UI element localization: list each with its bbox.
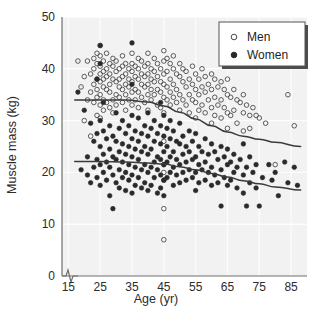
scatter-point [88, 180, 93, 185]
legend-marker-men [231, 34, 237, 40]
scatter-point [197, 162, 202, 167]
scatter-point [111, 173, 116, 178]
scatter-point [155, 168, 160, 173]
scatter-plot-figure: 01020304050 1525354555657585 Age (yr) Mu… [0, 0, 313, 316]
scatter-point [203, 178, 208, 183]
scatter-point [232, 152, 237, 157]
scatter-point [209, 183, 214, 188]
scatter-point [117, 186, 122, 191]
scatter-point [241, 191, 246, 196]
scatter-point [85, 155, 90, 160]
scatter-point [232, 170, 237, 175]
scatter-point [146, 152, 151, 157]
scatter-point [184, 144, 189, 149]
scatter-point [177, 121, 182, 126]
scatter-point [120, 142, 125, 147]
scatter-point [85, 173, 90, 178]
scatter-point [149, 126, 154, 131]
scatter-point [120, 175, 125, 180]
scatter-point [247, 155, 252, 160]
scatter-point [120, 118, 125, 123]
legend[interactable]: Men Women [219, 22, 308, 69]
scatter-point [162, 193, 167, 198]
scatter-point [142, 123, 147, 128]
scatter-point [101, 152, 106, 157]
scatter-point [123, 170, 128, 175]
scatter-point [158, 173, 163, 178]
scatter-point [197, 144, 202, 149]
scatter-point [222, 155, 227, 160]
scatter-point [114, 139, 119, 144]
scatter-point [273, 170, 278, 175]
y-tick-label: 30 [42, 114, 56, 128]
scatter-point [127, 144, 132, 149]
scatter-point [292, 165, 297, 170]
scatter-point [123, 131, 128, 136]
x-tick-label: 65 [221, 280, 235, 294]
legend-label-women: Women [247, 48, 288, 62]
scatter-point [225, 183, 230, 188]
scatter-point [260, 175, 265, 180]
scatter-point [174, 173, 179, 178]
scatter-point [168, 155, 173, 160]
scatter-point [139, 149, 144, 154]
scatter-point [200, 149, 205, 154]
scatter-point [270, 178, 275, 183]
y-tick-label: 50 [42, 10, 56, 24]
scatter-point [95, 175, 100, 180]
scatter-point [177, 142, 182, 147]
scatter-point [133, 165, 138, 170]
scatter-point [193, 170, 198, 175]
scatter-point [171, 149, 176, 154]
scatter-point [219, 204, 224, 209]
scatter-point [181, 152, 186, 157]
scatter-point [257, 204, 262, 209]
scatter-point [142, 180, 147, 185]
scatter-point [158, 157, 163, 162]
scatter-point [162, 149, 167, 154]
scatter-point [165, 175, 170, 180]
scatter-point [168, 170, 173, 175]
x-tick-label: 25 [94, 280, 108, 294]
x-tick-label: 15 [62, 280, 76, 294]
scatter-point [158, 142, 163, 147]
scatter-point [177, 180, 182, 185]
scatter-point [127, 123, 132, 128]
scatter-point [244, 165, 249, 170]
scatter-point [142, 144, 147, 149]
scatter-point [171, 183, 176, 188]
scatter-point [136, 175, 141, 180]
y-tick-label: 20 [42, 165, 56, 179]
x-tick-label: 55 [189, 280, 203, 294]
scatter-point [101, 129, 106, 134]
scatter-point [117, 149, 122, 154]
scatter-point [82, 108, 87, 113]
scatter-point [133, 147, 138, 152]
scatter-point [107, 147, 112, 152]
y-tick-label: 10 [42, 217, 56, 231]
scatter-point [146, 170, 151, 175]
scatter-point [123, 152, 128, 157]
scatter-point [181, 170, 186, 175]
scatter-point [136, 116, 141, 121]
scatter-point [127, 162, 132, 167]
scatter-point [228, 178, 233, 183]
scatter-point [98, 118, 103, 123]
x-axis-title: Age (yr) [134, 292, 178, 306]
scatter-point [98, 162, 103, 167]
scatter-point [98, 61, 103, 66]
scatter-point [117, 168, 122, 173]
scatter-point [187, 149, 192, 154]
scatter-point [168, 118, 173, 123]
x-tick-label: 85 [284, 280, 298, 294]
scatter-point [181, 134, 186, 139]
scatter-point [251, 170, 256, 175]
scatter-point [107, 123, 112, 128]
scatter-point [152, 118, 157, 123]
scatter-point [104, 136, 109, 141]
scatter-point [216, 180, 221, 185]
scatter-point [130, 173, 135, 178]
scatter-point [235, 165, 240, 170]
scatter-point [219, 144, 224, 149]
scatter-point [123, 188, 128, 193]
